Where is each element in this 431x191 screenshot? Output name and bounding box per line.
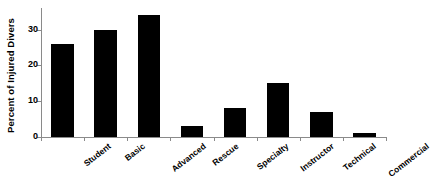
- y-axis-line: [41, 8, 42, 137]
- x-tick-label: Technical: [341, 141, 378, 173]
- x-tick-label: Basic: [122, 141, 146, 163]
- bar: [94, 30, 116, 138]
- y-tick-label: 10: [28, 95, 38, 105]
- y-tick: 30: [41, 30, 42, 31]
- bar: [267, 83, 289, 137]
- x-tick-label: Instructor: [299, 141, 336, 173]
- bar: [310, 112, 332, 137]
- x-axis-labels: StudentBasicAdvancedRescueSpecialtyInstr…: [41, 141, 386, 191]
- y-tick: 10: [41, 101, 42, 102]
- bar: [224, 108, 246, 137]
- bar: [353, 133, 375, 137]
- y-tick-label: 30: [28, 24, 38, 34]
- x-tick-label: Specialty: [255, 141, 291, 172]
- bar: [138, 15, 160, 137]
- plot-area: 0102030: [41, 8, 386, 137]
- bar: [181, 126, 203, 137]
- x-tick-label: Commercial: [387, 141, 431, 179]
- x-tick-label: Student: [81, 141, 112, 168]
- y-tick-label: 0: [33, 131, 38, 141]
- x-tick-label: Advanced: [169, 141, 207, 174]
- y-axis-title: Percent of Injured Divers: [0, 0, 20, 150]
- bar: [51, 44, 73, 137]
- x-tick-mark: [386, 137, 387, 141]
- x-tick-label: Rescue: [210, 141, 240, 168]
- y-tick-label: 20: [28, 59, 38, 69]
- y-tick: 20: [41, 65, 42, 66]
- y-axis-title-text: Percent of Injured Divers: [5, 18, 16, 133]
